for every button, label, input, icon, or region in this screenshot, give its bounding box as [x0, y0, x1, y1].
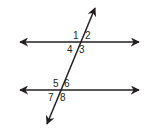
- transversal-line: [47, 8, 95, 124]
- angle-label-5: 5: [53, 78, 59, 89]
- angle-label-4: 4: [67, 44, 73, 55]
- angle-label-1: 1: [73, 30, 79, 41]
- angle-label-2: 2: [85, 30, 91, 41]
- angle-label-3: 3: [79, 44, 85, 55]
- angle-label-6: 6: [64, 78, 70, 89]
- angle-label-7: 7: [48, 92, 54, 103]
- angle-label-8: 8: [60, 92, 66, 103]
- transversal-diagram: 1 2 4 3 5 6 7 8: [0, 0, 149, 132]
